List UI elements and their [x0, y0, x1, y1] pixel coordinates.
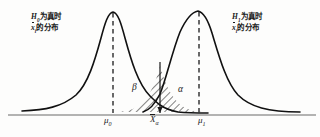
h1-annotation-line1: H1为真时 [232, 12, 262, 23]
axis-label-mu0: μ0 [104, 115, 112, 128]
h1-annotation-text1: 为真时 [241, 12, 262, 21]
critical-symbol: X [150, 114, 156, 125]
axis-label-mu1: μ1 [198, 115, 206, 128]
axis-label-critical: Xα [150, 114, 159, 127]
h1-annotation-text2: 的分布 [237, 23, 258, 32]
h0-annotation-text1: 为真时 [40, 12, 61, 21]
beta-symbol-label: β [132, 82, 137, 94]
h0-annotation-line2: xi的分布 [31, 23, 61, 34]
h0-annotation-line1: H0为真时 [31, 12, 61, 23]
mu0-subscript: 0 [109, 121, 112, 127]
alpha-symbol-label: α [178, 84, 183, 96]
xbar-symbol-left: x [31, 23, 35, 32]
h1-annotation-label: H1为真时 xi的分布 [232, 12, 262, 34]
mu1-subscript: 1 [203, 121, 206, 127]
xbar-symbol-right: x [232, 23, 236, 32]
h0-annotation-label: H0为真时 xi的分布 [31, 12, 61, 34]
h0-annotation-text2: 的分布 [36, 23, 57, 32]
beta-region-hatch [110, 60, 165, 115]
h1-annotation-line2: xi的分布 [232, 23, 262, 34]
hypothesis-test-figure: H0为真时 xi的分布 H1为真时 xi的分布 β α μ0 Xα μ1 [0, 0, 320, 137]
alpha-region-hatch [158, 60, 210, 115]
